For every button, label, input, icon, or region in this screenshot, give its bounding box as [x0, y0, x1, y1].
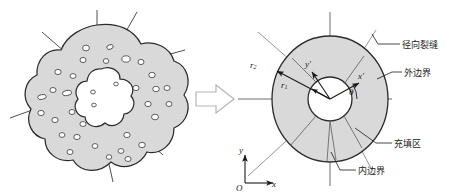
y-prime-label: y′: [305, 59, 311, 69]
callout-radial-crack: 径向裂缝: [402, 38, 438, 51]
global-x-label: x: [272, 179, 276, 189]
global-y-label: y: [239, 145, 243, 155]
global-coordinate-frame: [245, 155, 273, 183]
callout-outer-boundary: 外边界: [404, 66, 431, 79]
right-annulus-model: [238, 12, 402, 186]
leader-radial-crack: [372, 34, 400, 44]
r2-label: r2: [250, 60, 257, 70]
callout-filling-zone: 充填区: [394, 137, 421, 150]
callout-inner-boundary: 内边界: [358, 164, 385, 177]
global-origin-label: O: [236, 183, 243, 192]
theta-label: θ: [349, 87, 353, 97]
figure-root: [0, 0, 457, 192]
x-prime-label: x′: [358, 71, 364, 81]
r1-label: r1: [281, 80, 288, 90]
left-cross-section: [10, 10, 188, 182]
transform-arrow-icon: [196, 85, 234, 113]
